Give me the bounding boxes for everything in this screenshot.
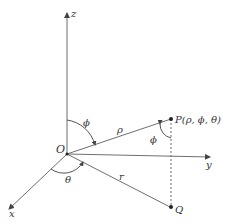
origin-marker <box>66 153 69 156</box>
phi-top-label: ϕ <box>83 117 90 128</box>
spherical-coordinates-diagram: z y x O P(ρ, ϕ, θ) Q ρ r ϕ ϕ θ <box>0 0 226 224</box>
theta-label: θ <box>65 174 71 185</box>
rho-label: ρ <box>116 124 123 135</box>
point-p-marker <box>169 117 173 121</box>
x-axis-label: x <box>9 208 15 219</box>
point-q-label: Q <box>175 204 183 215</box>
phi-arc-top <box>67 120 95 145</box>
phi-at-p-label: ϕ <box>150 134 157 145</box>
phi-arc-at-p <box>160 124 171 138</box>
y-axis-label: y <box>205 159 212 170</box>
point-p-label: P(ρ, ϕ, θ) <box>174 114 221 125</box>
theta-arc <box>51 162 83 173</box>
x-axis <box>9 154 67 209</box>
point-q-marker <box>169 205 173 209</box>
z-axis-label: z <box>70 8 77 19</box>
origin-label: O <box>56 143 65 156</box>
r-label: r <box>119 171 125 182</box>
y-axis <box>67 154 210 157</box>
